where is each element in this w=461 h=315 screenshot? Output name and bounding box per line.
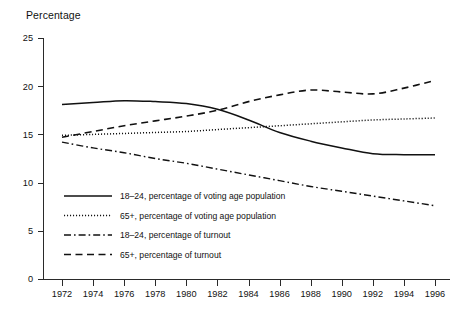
x-tick-label: 1996 [425, 289, 445, 299]
series-line-3 [62, 80, 435, 137]
legend-label-2: 18–24, percentage of turnout [120, 230, 231, 240]
chart-title: Percentage [26, 9, 81, 21]
chart-figure: Percentage 0510152025 197219741976197819… [0, 0, 461, 315]
legend-label-3: 65+, percentage of turnout [120, 250, 222, 260]
data-series-group [62, 80, 435, 205]
y-tick-label: 20 [23, 82, 33, 92]
x-tick-label: 1980 [176, 289, 196, 299]
x-tick-label: 1988 [300, 289, 320, 299]
x-tick-label: 1982 [207, 289, 227, 299]
x-axis-ticks: 1972197419761978198019821984198619881990… [52, 280, 445, 300]
x-tick-label: 1994 [394, 289, 414, 299]
y-axis-ticks: 0510152025 [23, 33, 44, 284]
x-tick-label: 1976 [114, 289, 134, 299]
y-tick-label: 15 [23, 130, 33, 140]
x-tick-label: 1986 [269, 289, 289, 299]
x-tick-label: 1972 [52, 289, 72, 299]
y-tick-label: 10 [23, 178, 33, 188]
y-tick-label: 25 [23, 33, 33, 43]
x-tick-label: 1984 [238, 289, 258, 299]
x-tick-label: 1974 [83, 289, 103, 299]
x-tick-label: 1992 [363, 289, 383, 299]
chart-legend: 18–24, percentage of voting age populati… [64, 191, 286, 260]
legend-label-0: 18–24, percentage of voting age populati… [120, 191, 286, 201]
line-chart-plot: 0510152025 19721974197619781980198219841… [0, 0, 461, 315]
y-tick-label: 5 [28, 226, 33, 236]
x-tick-label: 1978 [145, 289, 165, 299]
legend-label-1: 65+, percentage of voting age population [120, 211, 276, 221]
y-tick-label: 0 [28, 274, 33, 284]
x-tick-label: 1990 [332, 289, 352, 299]
